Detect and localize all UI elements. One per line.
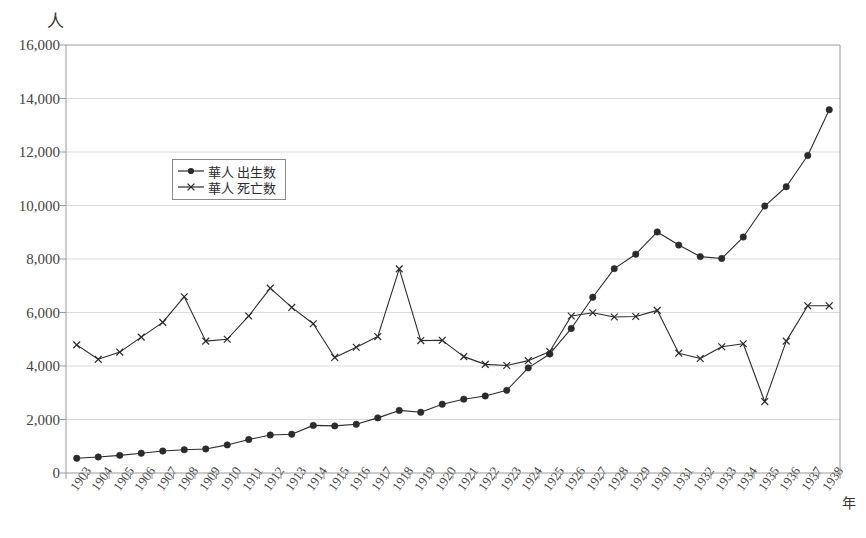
chart-figure: 人 年 02,0004,0006,0008,00010,00012,00014,… <box>0 0 866 538</box>
data-point-marker <box>396 407 402 413</box>
data-point-marker <box>117 452 123 458</box>
data-point-marker <box>439 401 445 407</box>
data-point-marker <box>289 431 295 437</box>
data-point-marker <box>74 455 80 461</box>
data-point-marker <box>654 229 660 235</box>
data-point-marker <box>697 253 703 259</box>
data-point-marker <box>332 423 338 429</box>
data-point-marker <box>203 446 209 452</box>
legend-entry-deaths: 華人 死亡数 <box>177 179 281 195</box>
data-point-marker <box>224 442 230 448</box>
data-point-marker <box>590 294 596 300</box>
data-point-marker <box>676 242 682 248</box>
deaths-line-marker-icon <box>177 180 205 194</box>
data-point-marker <box>633 251 639 257</box>
chart-plot-area <box>0 0 866 538</box>
data-point-marker <box>353 421 359 427</box>
data-point-marker <box>611 265 617 271</box>
births-line-marker-icon <box>177 164 205 178</box>
data-point-marker <box>461 396 467 402</box>
data-point-marker <box>762 203 768 209</box>
data-point-marker <box>482 393 488 399</box>
chart-legend: 華人 出生数 華人 死亡数 <box>172 159 286 200</box>
data-point-marker <box>719 255 725 261</box>
data-point-marker <box>740 234 746 240</box>
data-point-marker <box>783 184 789 190</box>
data-point-marker <box>95 454 101 460</box>
data-point-marker <box>805 152 811 158</box>
data-point-marker <box>310 422 316 428</box>
legend-label-deaths: 華人 死亡数 <box>208 178 276 197</box>
data-point-marker <box>525 365 531 371</box>
data-point-marker <box>246 436 252 442</box>
data-point-marker <box>375 415 381 421</box>
data-point-marker <box>826 107 832 113</box>
data-point-marker <box>267 432 273 438</box>
data-point-marker <box>418 409 424 415</box>
data-point-marker <box>504 387 510 393</box>
series-line <box>77 269 830 402</box>
data-point-marker <box>568 325 574 331</box>
data-point-marker <box>160 448 166 454</box>
data-point-marker <box>181 447 187 453</box>
series-deaths <box>73 265 832 404</box>
data-point-marker <box>138 450 144 456</box>
